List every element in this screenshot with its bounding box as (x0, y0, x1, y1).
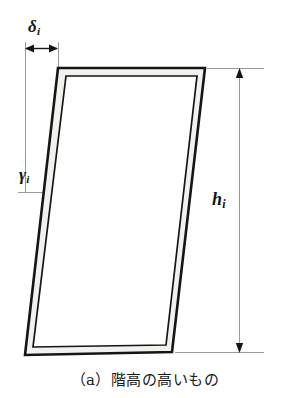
delta-arrowhead-left (25, 45, 34, 53)
figure-caption: （a）階高の高いもの (0, 368, 290, 389)
height-i-label: hi (212, 190, 226, 211)
delta-arrowhead-right (49, 45, 58, 53)
gamma-i-label: γi (19, 166, 29, 185)
height-arrowhead-bottom (236, 343, 243, 353)
delta-dimension-arrow (25, 45, 58, 53)
leaning-frame (25, 68, 205, 355)
frame-drawing (0, 0, 290, 398)
figure-leaning-frame-diagram: δi γi hi （a）階高の高いもの (0, 0, 290, 398)
delta-i-label: δi (28, 18, 40, 37)
frame-outer-outline (25, 68, 205, 355)
delta-symbol: δ (28, 17, 37, 36)
gamma-subscript: i (26, 173, 29, 185)
height-arrowhead-top (236, 68, 243, 78)
delta-subscript: i (37, 25, 40, 37)
height-subscript: i (222, 197, 225, 211)
height-symbol: h (212, 189, 222, 209)
